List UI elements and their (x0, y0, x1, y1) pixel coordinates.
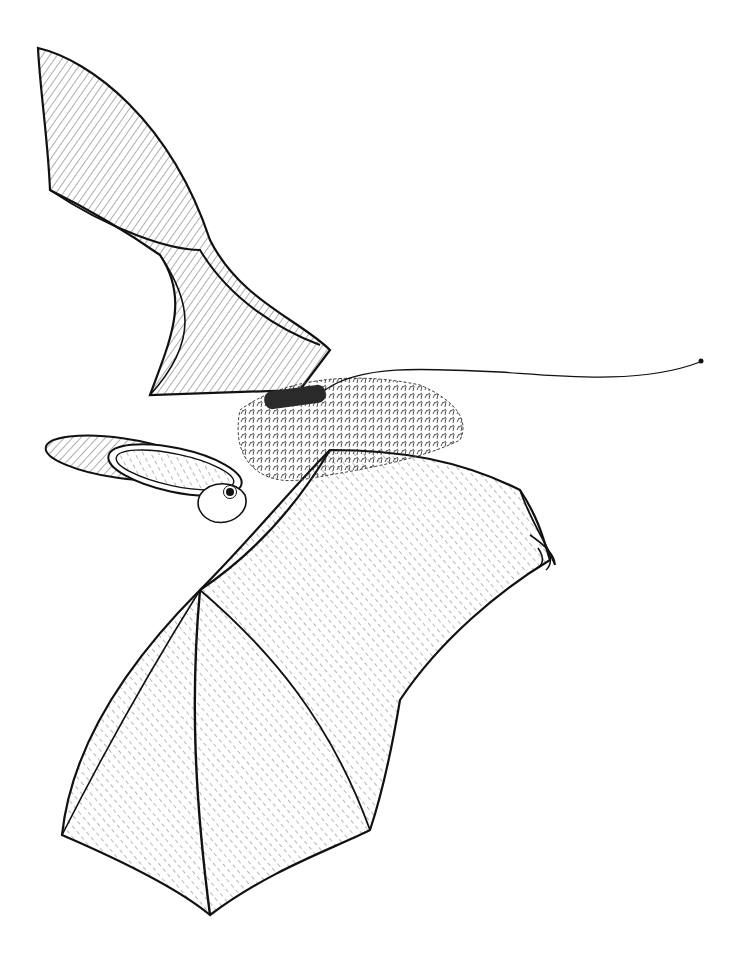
bat-illustration (0, 0, 739, 969)
bat-head (198, 484, 246, 523)
upper-wing (38, 48, 330, 395)
lower-wing (62, 450, 555, 915)
bat-eye (226, 488, 234, 496)
